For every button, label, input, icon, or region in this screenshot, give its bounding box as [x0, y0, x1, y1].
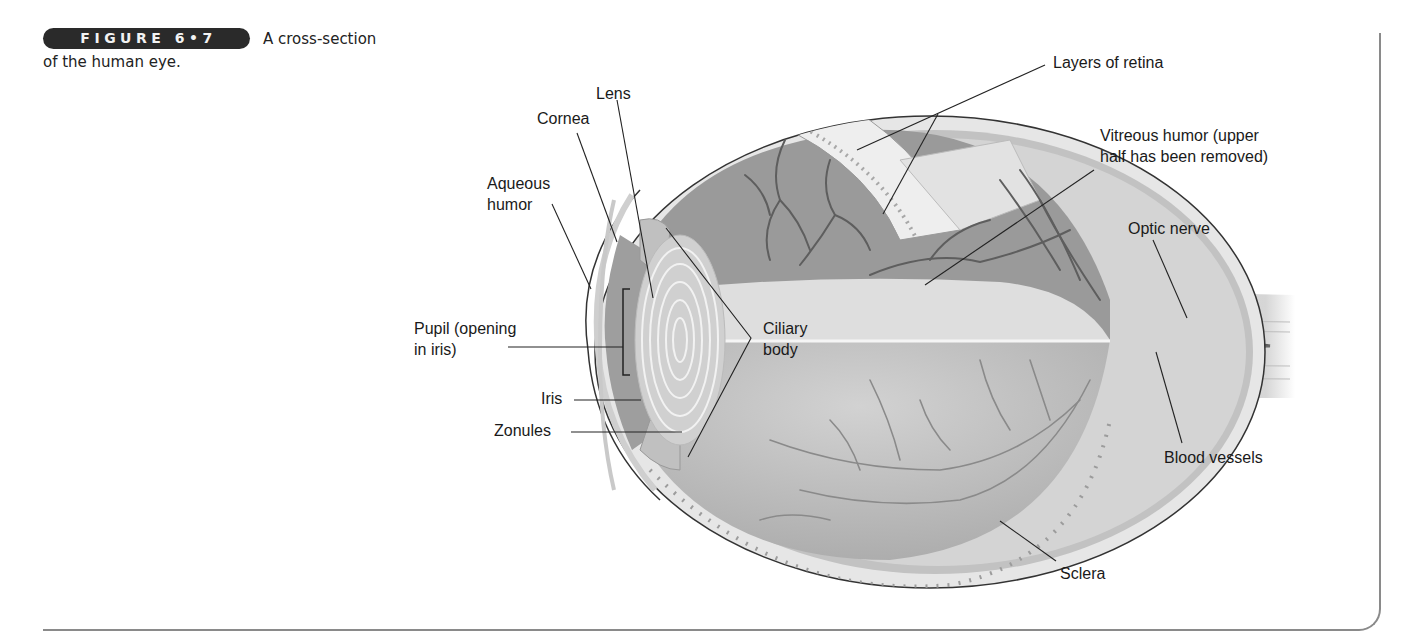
label-sclera: Sclera — [1060, 563, 1105, 584]
label-layers-of-retina: Layers of retina — [1053, 52, 1163, 73]
label-pupil-line2: in iris) — [414, 339, 457, 360]
eye-cross-section-illustration — [0, 0, 1424, 643]
label-aqueous-humor-line2: humor — [487, 194, 532, 215]
label-optic-nerve: Optic nerve — [1128, 218, 1210, 239]
label-iris: Iris — [541, 388, 562, 409]
label-ciliary-body-line1: Ciliary — [763, 318, 807, 339]
label-aqueous-humor-line1: Aqueous — [487, 173, 550, 194]
label-vitreous-humor-line1: Vitreous humor (upper — [1100, 125, 1259, 146]
label-vitreous-humor-line2: half has been removed) — [1100, 146, 1268, 167]
label-blood-vessels: Blood vessels — [1164, 447, 1263, 468]
label-zonules: Zonules — [494, 420, 551, 441]
label-ciliary-body-line2: body — [763, 339, 798, 360]
label-lens: Lens — [596, 83, 631, 104]
label-cornea: Cornea — [537, 108, 589, 129]
label-pupil-line1: Pupil (opening — [414, 318, 516, 339]
